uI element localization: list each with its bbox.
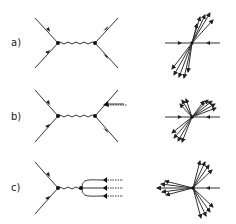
diagram-canvas xyxy=(0,0,236,224)
feynman-diagram-a xyxy=(35,18,118,68)
event-display-c xyxy=(157,161,220,218)
event-display-a xyxy=(165,13,220,78)
feynman-diagram-b xyxy=(35,90,127,142)
event-display-b xyxy=(165,99,220,142)
feynman-diagram-c xyxy=(35,162,123,214)
